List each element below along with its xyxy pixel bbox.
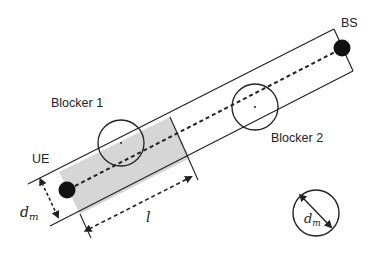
- bs-node: [334, 40, 351, 57]
- l-start-line: [80, 214, 91, 238]
- blocker-1-label: Blocker 1: [51, 96, 103, 110]
- los-path-dotted: [75, 52, 335, 186]
- dm-legend: [293, 190, 339, 236]
- dm-legend-circle: [293, 190, 339, 236]
- dm-width-arrow: [42, 183, 58, 217]
- blocker-2: [232, 84, 278, 130]
- blockage-model-diagram: BS UE Blocker 1 Blocker 2 dm l dm: [0, 0, 389, 257]
- ue-label: UE: [32, 152, 49, 166]
- ue-node: [59, 182, 76, 199]
- bs-label: BS: [341, 16, 358, 30]
- blocker-2-label: Blocker 2: [271, 131, 323, 145]
- l-label: l: [146, 209, 150, 225]
- dm-width-label: dm: [20, 204, 38, 222]
